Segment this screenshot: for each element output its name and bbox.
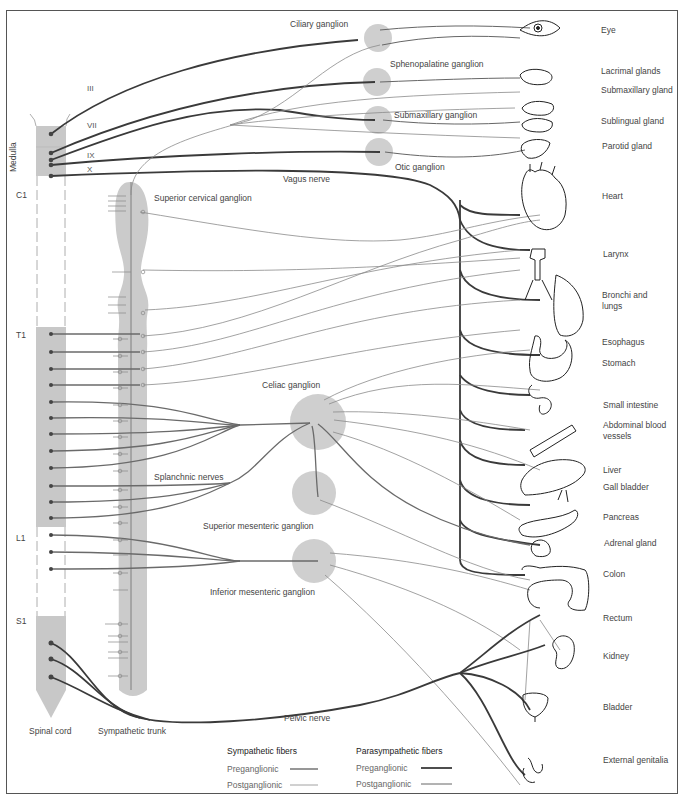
label-sublingual: Sublingual gland bbox=[601, 116, 664, 127]
legend-parasympathetic-title: Parasympathetic fibers bbox=[356, 746, 442, 756]
label-bladder: Bladder bbox=[603, 702, 632, 713]
label-splanchnic-nerves: Splanchnic nerves bbox=[154, 472, 223, 483]
label-rectum: Rectum bbox=[603, 613, 632, 624]
label-inferior-mesenteric-ganglion: Inferior mesenteric ganglion bbox=[210, 587, 315, 598]
label-t1: T1 bbox=[16, 330, 26, 341]
label-pelvic-nerve: Pelvic nerve bbox=[284, 713, 330, 724]
label-small-intestine: Small intestine bbox=[603, 400, 658, 411]
label-l1: L1 bbox=[16, 533, 25, 544]
legend-para-postganglionic: Postganglionic bbox=[356, 779, 411, 789]
spinal-cord bbox=[30, 114, 70, 718]
label-gall-bladder: Gall bladder bbox=[603, 482, 649, 493]
label-liver: Liver bbox=[603, 465, 621, 476]
label-heart: Heart bbox=[602, 191, 623, 202]
colon-icon bbox=[522, 566, 589, 610]
label-cn-vii: VII bbox=[87, 121, 97, 130]
genitalia-icon bbox=[523, 758, 543, 783]
legend-sym-postganglionic: Postganglionic bbox=[227, 780, 282, 790]
label-eye: Eye bbox=[601, 25, 616, 36]
label-kidney: Kidney bbox=[603, 651, 629, 662]
label-esophagus: Esophagus bbox=[602, 337, 645, 348]
label-c1: C1 bbox=[16, 190, 27, 201]
lacrimal-gland-icon bbox=[520, 69, 552, 84]
parotid-gland-icon bbox=[521, 139, 550, 158]
label-sympathetic-trunk: Sympathetic trunk bbox=[98, 726, 166, 737]
label-cn-iii: III bbox=[87, 84, 94, 93]
heart-icon bbox=[522, 162, 566, 230]
kidney-icon bbox=[553, 636, 575, 669]
submaxillary-gland-icon bbox=[522, 101, 554, 115]
adrenal-gland-icon bbox=[531, 540, 550, 557]
sublingual-gland-icon bbox=[522, 119, 552, 133]
label-abdominal-vessels: Abdominal blood vessels bbox=[603, 420, 683, 442]
label-cn-ix: IX bbox=[87, 151, 95, 160]
autonomic-diagram bbox=[0, 0, 686, 806]
stomach-icon bbox=[529, 336, 572, 381]
label-bronchi: Bronchi and lungs bbox=[602, 290, 664, 312]
label-s1: S1 bbox=[16, 616, 26, 627]
label-genitalia: External genitalia bbox=[603, 755, 668, 766]
ganglia bbox=[290, 24, 393, 583]
label-larynx: Larynx bbox=[603, 249, 629, 260]
label-lacrimal: Lacrimal glands bbox=[601, 66, 661, 77]
label-superior-mesenteric-ganglion: Superior mesenteric ganglion bbox=[203, 521, 314, 532]
label-sphenopalatine-ganglion: Sphenopalatine ganglion bbox=[390, 59, 484, 70]
sympathetic-head-postganglionic bbox=[131, 45, 540, 241]
label-ciliary-ganglion: Ciliary ganglion bbox=[290, 19, 348, 30]
lungs-icon bbox=[525, 275, 583, 336]
vagus-nerve-branches bbox=[460, 200, 540, 575]
larynx-icon bbox=[530, 249, 545, 280]
label-celiac-ganglion: Celiac ganglion bbox=[262, 380, 320, 391]
label-submaxillary-gland: Submaxillary gland bbox=[601, 85, 681, 96]
label-vagus-nerve: Vagus nerve bbox=[283, 174, 330, 185]
label-submaxillary-ganglion: Submaxillary ganglion bbox=[394, 110, 477, 121]
label-adrenal: Adrenal gland bbox=[604, 538, 656, 549]
superior-mesenteric-ganglion bbox=[292, 471, 336, 515]
label-pancreas: Pancreas bbox=[603, 512, 639, 523]
label-otic-ganglion: Otic ganglion bbox=[395, 162, 445, 173]
label-colon: Colon bbox=[603, 569, 625, 580]
label-cn-x: X bbox=[87, 165, 92, 174]
legend-para-preganglionic: Preganglionic bbox=[356, 763, 408, 773]
organ-illustrations bbox=[519, 21, 589, 783]
label-spinal-cord: Spinal cord bbox=[29, 726, 72, 737]
label-superior-cervical-ganglion: Superior cervical ganglion bbox=[154, 193, 252, 204]
legend-sym-preganglionic: Preganglionic bbox=[227, 764, 279, 774]
pancreas-icon bbox=[519, 510, 578, 537]
label-stomach: Stomach bbox=[602, 358, 636, 369]
label-parotid: Parotid gland bbox=[602, 141, 652, 152]
label-medulla: Medulla bbox=[8, 142, 19, 172]
celiac-ganglion bbox=[290, 394, 346, 450]
blood-vessels-icon bbox=[530, 425, 576, 457]
legend-sympathetic-title: Sympathetic fibers bbox=[227, 746, 297, 756]
bladder-icon bbox=[523, 693, 548, 722]
